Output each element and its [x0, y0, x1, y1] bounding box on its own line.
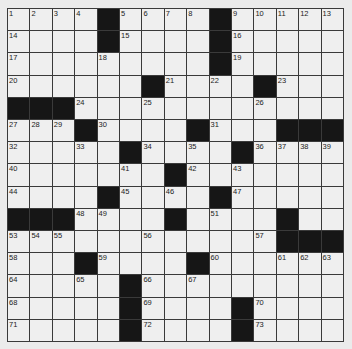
grid-cell[interactable]: 20 — [8, 76, 29, 97]
grid-cell[interactable] — [322, 98, 343, 119]
grid-cell[interactable]: 38 — [299, 142, 320, 163]
grid-cell[interactable] — [165, 120, 186, 141]
grid-cell[interactable]: 14 — [8, 31, 29, 52]
grid-cell[interactable] — [75, 164, 96, 185]
grid-cell[interactable] — [232, 120, 253, 141]
grid-cell[interactable]: 67 — [187, 275, 208, 296]
grid-cell[interactable]: 23 — [277, 76, 298, 97]
grid-cell[interactable] — [187, 298, 208, 319]
grid-cell[interactable] — [254, 209, 275, 230]
grid-cell[interactable] — [120, 120, 141, 141]
grid-cell[interactable] — [299, 320, 320, 341]
grid-cell[interactable]: 26 — [254, 98, 275, 119]
grid-cell[interactable] — [165, 231, 186, 252]
grid-cell[interactable] — [98, 98, 119, 119]
grid-cell[interactable] — [277, 98, 298, 119]
grid-cell[interactable]: 60 — [210, 253, 231, 274]
grid-cell[interactable] — [210, 298, 231, 319]
grid-cell[interactable] — [75, 231, 96, 252]
grid-cell[interactable] — [165, 320, 186, 341]
grid-cell[interactable] — [299, 31, 320, 52]
grid-cell[interactable] — [30, 53, 51, 74]
grid-cell[interactable]: 63 — [322, 253, 343, 274]
grid-cell[interactable] — [120, 231, 141, 252]
grid-cell[interactable]: 39 — [322, 142, 343, 163]
grid-cell[interactable]: 70 — [254, 298, 275, 319]
grid-cell[interactable]: 53 — [8, 231, 29, 252]
grid-cell[interactable]: 22 — [210, 76, 231, 97]
grid-cell[interactable] — [98, 142, 119, 163]
grid-cell[interactable] — [30, 298, 51, 319]
grid-cell[interactable] — [299, 298, 320, 319]
grid-cell[interactable] — [142, 187, 163, 208]
grid-cell[interactable] — [30, 142, 51, 163]
grid-cell[interactable]: 25 — [142, 98, 163, 119]
grid-cell[interactable]: 43 — [232, 164, 253, 185]
grid-cell[interactable] — [187, 209, 208, 230]
grid-cell[interactable] — [299, 164, 320, 185]
grid-cell[interactable] — [277, 53, 298, 74]
grid-cell[interactable] — [98, 231, 119, 252]
grid-cell[interactable]: 28 — [30, 120, 51, 141]
grid-cell[interactable]: 32 — [8, 142, 29, 163]
grid-cell[interactable] — [210, 98, 231, 119]
grid-cell[interactable]: 73 — [254, 320, 275, 341]
grid-cell[interactable]: 6 — [142, 9, 163, 30]
grid-cell[interactable] — [165, 31, 186, 52]
grid-cell[interactable] — [277, 298, 298, 319]
grid-cell[interactable] — [210, 275, 231, 296]
grid-cell[interactable] — [187, 231, 208, 252]
grid-cell[interactable] — [187, 76, 208, 97]
grid-cell[interactable]: 68 — [8, 298, 29, 319]
grid-cell[interactable] — [165, 53, 186, 74]
grid-cell[interactable] — [98, 164, 119, 185]
grid-cell[interactable] — [165, 98, 186, 119]
grid-cell[interactable] — [120, 253, 141, 274]
grid-cell[interactable] — [277, 187, 298, 208]
grid-cell[interactable]: 57 — [254, 231, 275, 252]
grid-cell[interactable]: 54 — [30, 231, 51, 252]
grid-cell[interactable]: 17 — [8, 53, 29, 74]
grid-cell[interactable]: 36 — [254, 142, 275, 163]
grid-cell[interactable]: 44 — [8, 187, 29, 208]
grid-cell[interactable] — [299, 53, 320, 74]
grid-cell[interactable]: 61 — [277, 253, 298, 274]
grid-cell[interactable] — [187, 98, 208, 119]
grid-cell[interactable]: 16 — [232, 31, 253, 52]
grid-cell[interactable]: 24 — [75, 98, 96, 119]
grid-cell[interactable]: 30 — [98, 120, 119, 141]
grid-cell[interactable] — [232, 275, 253, 296]
grid-cell[interactable] — [53, 298, 74, 319]
grid-cell[interactable]: 18 — [98, 53, 119, 74]
grid-cell[interactable] — [254, 253, 275, 274]
grid-cell[interactable]: 11 — [277, 9, 298, 30]
grid-cell[interactable] — [299, 98, 320, 119]
grid-cell[interactable]: 8 — [187, 9, 208, 30]
grid-cell[interactable] — [30, 31, 51, 52]
grid-cell[interactable] — [30, 187, 51, 208]
grid-cell[interactable]: 5 — [120, 9, 141, 30]
grid-cell[interactable] — [98, 320, 119, 341]
grid-cell[interactable]: 49 — [98, 209, 119, 230]
grid-cell[interactable] — [53, 253, 74, 274]
grid-cell[interactable] — [98, 298, 119, 319]
grid-cell[interactable] — [232, 253, 253, 274]
grid-cell[interactable]: 41 — [120, 164, 141, 185]
grid-cell[interactable] — [142, 164, 163, 185]
grid-cell[interactable]: 72 — [142, 320, 163, 341]
grid-cell[interactable]: 27 — [8, 120, 29, 141]
grid-cell[interactable] — [120, 53, 141, 74]
grid-cell[interactable] — [75, 53, 96, 74]
grid-cell[interactable] — [187, 31, 208, 52]
grid-cell[interactable] — [299, 209, 320, 230]
grid-cell[interactable] — [254, 31, 275, 52]
grid-cell[interactable] — [322, 31, 343, 52]
grid-cell[interactable] — [30, 76, 51, 97]
grid-cell[interactable]: 66 — [142, 275, 163, 296]
grid-cell[interactable] — [232, 76, 253, 97]
grid-cell[interactable]: 7 — [165, 9, 186, 30]
grid-cell[interactable] — [232, 231, 253, 252]
grid-cell[interactable]: 48 — [75, 209, 96, 230]
grid-cell[interactable] — [322, 275, 343, 296]
grid-cell[interactable]: 29 — [53, 120, 74, 141]
